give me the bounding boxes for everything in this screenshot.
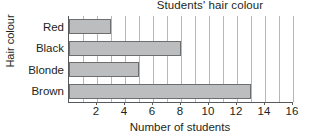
gridline	[279, 16, 280, 102]
x-axis-tick-label: 6	[139, 105, 165, 117]
bar-chart: Students' hair colour Hair colour RedBla…	[0, 0, 309, 140]
x-axis-tick-label: 12	[223, 105, 249, 117]
chart-title: Students' hair colour	[120, 0, 300, 11]
x-axis-tick-labels: 246810121416	[0, 105, 309, 119]
y-axis-category-label: Red	[43, 20, 64, 34]
plot-area	[68, 16, 292, 102]
bar	[69, 19, 111, 34]
x-axis-tick-label: 2	[83, 105, 109, 117]
x-axis-tick-label: 4	[111, 105, 137, 117]
gridline	[251, 16, 252, 102]
x-axis-tick-label: 16	[279, 105, 305, 117]
x-axis-tick-label: 8	[167, 105, 193, 117]
y-axis-category-label: Black	[36, 41, 64, 55]
x-axis-tick-label: 10	[195, 105, 221, 117]
x-axis-tick-label: 14	[251, 105, 277, 117]
bar	[69, 84, 251, 99]
y-axis-category-label: Blonde	[28, 63, 64, 77]
x-axis-title: Number of students	[68, 121, 292, 133]
y-axis-category-label: Brown	[31, 84, 64, 98]
bar	[69, 62, 139, 77]
y-axis-category-labels: RedBlackBlondeBrown	[14, 16, 66, 102]
gridline	[265, 16, 266, 102]
gridline	[293, 16, 294, 102]
bar	[69, 41, 181, 56]
